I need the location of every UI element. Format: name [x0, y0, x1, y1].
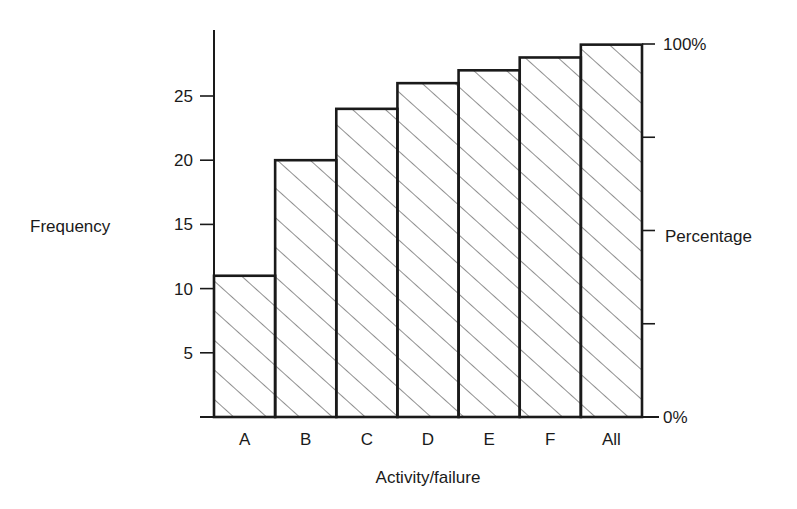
- bar-d: D: [397, 83, 458, 449]
- bar-a: A: [214, 276, 275, 449]
- bar-f: F: [520, 57, 581, 449]
- y-tick-label: 10: [174, 280, 193, 299]
- y2-axis-label: Percentage: [665, 227, 752, 246]
- y-tick-label: 15: [174, 215, 193, 234]
- y2-tick-label: 0%: [663, 408, 688, 427]
- y-axis-label: Frequency: [30, 217, 111, 236]
- y2-tick-label: 100%: [663, 35, 706, 54]
- y-tick-label: 25: [174, 87, 193, 106]
- x-tick-label: A: [239, 430, 251, 449]
- x-tick-label: B: [300, 430, 311, 449]
- x-tick-label: E: [483, 430, 494, 449]
- y-tick-label: 20: [174, 151, 193, 170]
- bar-b: B: [275, 160, 336, 449]
- x-tick-label: D: [422, 430, 434, 449]
- bars-group: ABCDEFAll: [214, 45, 642, 449]
- x-axis-label: Activity/failure: [376, 468, 481, 487]
- bar-e: E: [459, 70, 520, 449]
- x-tick-label: C: [361, 430, 373, 449]
- bar-all: All: [581, 45, 642, 449]
- x-tick-label: All: [602, 430, 621, 449]
- bar-c: C: [336, 109, 397, 449]
- y-tick-label: 5: [184, 344, 193, 363]
- cumulative-frequency-chart: ABCDEFAll 5101520250%100% Frequency Perc…: [0, 0, 797, 509]
- x-tick-label: F: [545, 430, 555, 449]
